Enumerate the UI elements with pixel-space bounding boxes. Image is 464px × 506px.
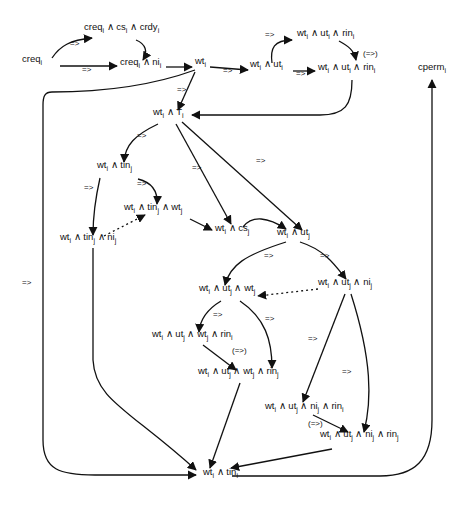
edge-label: =>	[177, 85, 186, 94]
edge-label: =>	[192, 163, 201, 172]
state-node-n13: wti ∧ csj	[215, 223, 249, 235]
edge-label: (=>)	[363, 49, 378, 58]
state-node-n20: wti ∧ utj ∧ nij ∧ rinj	[320, 429, 399, 441]
edge-label: =>	[84, 183, 93, 192]
state-node-n16: wti ∧ utj ∧ nij	[318, 277, 372, 289]
edge-label: (=>)	[232, 346, 247, 355]
edge-label: =>	[137, 131, 146, 140]
state-node-n17: wti ∧ utj ∧ wtj ∧ rini	[152, 329, 233, 341]
edge-label: =>	[22, 278, 31, 287]
edge-e8	[339, 41, 356, 60]
edge-e22	[258, 289, 318, 296]
state-node-n10: wti ∧ tinj	[97, 160, 132, 172]
edge-e13	[176, 124, 231, 224]
edge-label: =>	[342, 367, 351, 376]
edge-e12	[124, 124, 158, 162]
state-node-n21: wti ∧ tini	[203, 467, 238, 479]
edge-e24	[240, 301, 272, 368]
edge-e14	[182, 122, 302, 230]
state-node-n6: wti ∧ uti ∧ rini	[297, 28, 354, 40]
state-node-n7: wti ∧ uti ∧ rini	[318, 62, 375, 74]
state-node-n19: wti ∧ utj ∧ nij ∧ rini	[265, 401, 344, 413]
state-node-n11: wti ∧ tinj ∧ wtj	[124, 202, 182, 214]
state-node-n12: wti ∧ tinj ∧ nij	[60, 232, 116, 244]
edge-e26	[210, 383, 240, 468]
edge-label: =>	[213, 310, 222, 319]
state-node-n2: creqi ∧ csi ∧ crdyi	[84, 22, 159, 34]
state-node-n5: wti ∧ uti	[250, 59, 283, 71]
edge-label: =>	[308, 334, 317, 343]
edge-label: =>	[70, 39, 79, 48]
edge-e27	[303, 294, 345, 402]
edge-e18	[190, 219, 212, 230]
state-node-n9: wti ∧ Ti	[153, 107, 184, 119]
edge-label: =>	[265, 30, 274, 39]
state-node-n1: creqi	[22, 54, 42, 66]
state-node-n15: wti ∧ utj ∧ wtj	[199, 283, 255, 295]
edge-e30	[231, 449, 332, 468]
edge-label: =>	[256, 156, 265, 165]
edge-e32	[93, 248, 196, 470]
edge-e9	[192, 80, 352, 115]
edge-label: =>	[137, 179, 146, 188]
edge-label: =>	[82, 65, 91, 74]
edge-e21	[300, 242, 346, 279]
edge-e28	[351, 294, 369, 432]
edge-label: =>	[264, 251, 273, 260]
edge-label: =>	[320, 251, 329, 260]
edge-label: (=>)	[308, 419, 323, 428]
state-node-n18: wti ∧ utj ∧ wtj ∧ rinj	[198, 366, 279, 378]
state-node-n4: wti	[195, 56, 206, 68]
state-node-n8: cpermi	[418, 62, 446, 74]
edge-e20	[225, 242, 286, 285]
edge-e16	[93, 178, 100, 235]
state-node-n3: creqi ∧ nii	[120, 57, 161, 69]
edge-e11	[43, 70, 196, 475]
state-node-n14: wti ∧ utj	[277, 227, 310, 239]
edge-label: =>	[296, 69, 305, 78]
edge-label: =>	[223, 66, 232, 75]
edge-label: =>	[265, 314, 274, 323]
